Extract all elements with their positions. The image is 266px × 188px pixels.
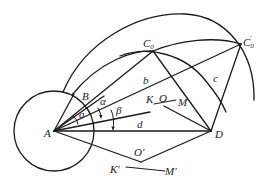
line-c0prime-d <box>211 44 241 131</box>
label-d: D <box>214 128 223 140</box>
label-a-seg: a <box>79 108 85 120</box>
line-oprime-d <box>141 131 211 162</box>
arrow-beta <box>111 127 115 131</box>
label-c0-sub: 0 <box>150 43 154 51</box>
label-c0: C0 <box>143 37 154 51</box>
segment-kprime-mprime <box>126 167 165 171</box>
label-b: B <box>82 90 89 102</box>
label-a: A <box>43 127 51 139</box>
arc-c0 <box>72 40 241 95</box>
label-c0prime: C0′ <box>243 34 254 50</box>
label-alpha-upper: α <box>100 95 106 107</box>
line-c0-d <box>153 51 211 131</box>
label-oprime: O′ <box>134 146 145 158</box>
line-a-upper <box>54 94 74 131</box>
label-c-seg: c <box>213 72 218 84</box>
angle-arc-alpha-lower <box>73 116 78 124</box>
label-d-seg: d <box>137 118 143 130</box>
label-b-seg: b <box>143 74 149 86</box>
label-mprime: M′ <box>164 165 177 177</box>
label-m: M <box>177 96 188 108</box>
label-beta: β <box>115 104 122 116</box>
geometry-diagram: A B C0 C0′ D K O M K′ O′ M′ a b c d α β <box>0 0 266 188</box>
label-k: K <box>145 93 154 105</box>
arrow-alpha-upper <box>99 115 103 118</box>
arc-c <box>120 52 226 112</box>
label-o: O <box>159 92 167 104</box>
label-kprime: K′ <box>109 163 120 175</box>
outer-arc <box>63 14 254 100</box>
label-c0prime-mark: ′ <box>250 34 252 42</box>
label-c0prime-sub: 0 <box>250 42 254 50</box>
line-o-d <box>164 106 211 131</box>
line-a-lower <box>54 131 141 162</box>
